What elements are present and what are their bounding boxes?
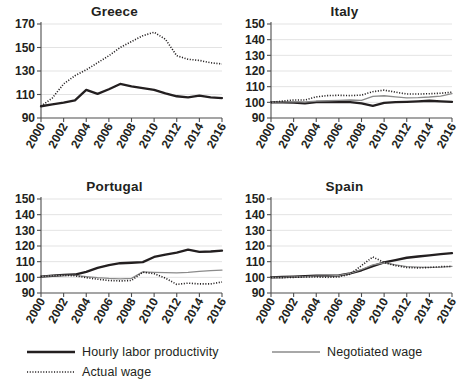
svg-text:90: 90 <box>22 286 36 300</box>
legend-label-negotiated-wage: Negotiated wage <box>327 345 422 359</box>
plot-area-portugal: 9010011012013014015020002002200420062008… <box>0 175 229 350</box>
svg-text:2008: 2008 <box>113 295 139 325</box>
legend-swatch-dotted <box>27 366 75 378</box>
svg-text:140: 140 <box>245 208 265 222</box>
chart-legend: Hourly labor productivity Actual wage Ne… <box>0 345 459 389</box>
svg-text:170: 170 <box>15 17 35 31</box>
svg-text:90: 90 <box>22 111 36 125</box>
multi-panel-line-chart: Greece 901101301501702000200220042006200… <box>0 0 459 389</box>
svg-text:90: 90 <box>252 286 266 300</box>
svg-text:150: 150 <box>15 192 35 206</box>
svg-text:2008: 2008 <box>113 120 139 150</box>
svg-text:2008: 2008 <box>343 295 369 325</box>
svg-text:2010: 2010 <box>366 120 392 150</box>
svg-text:140: 140 <box>15 208 35 222</box>
svg-text:2006: 2006 <box>90 120 116 150</box>
svg-text:2016: 2016 <box>434 295 459 325</box>
svg-text:100: 100 <box>245 96 265 110</box>
legend-swatch-solid-thick <box>27 346 75 358</box>
svg-text:120: 120 <box>15 239 35 253</box>
svg-text:110: 110 <box>16 255 36 269</box>
svg-text:2002: 2002 <box>275 295 301 325</box>
svg-text:2010: 2010 <box>136 120 162 150</box>
svg-text:150: 150 <box>245 17 265 31</box>
svg-text:110: 110 <box>246 255 266 269</box>
svg-text:2004: 2004 <box>298 295 324 325</box>
svg-text:120: 120 <box>245 239 265 253</box>
svg-text:120: 120 <box>245 64 265 78</box>
svg-text:140: 140 <box>245 33 265 47</box>
svg-text:110: 110 <box>246 80 266 94</box>
legend-item-actual-wage: Actual wage <box>27 365 151 379</box>
svg-text:2012: 2012 <box>158 120 184 150</box>
legend-label-hourly-labor-productivity: Hourly labor productivity <box>82 345 219 359</box>
svg-text:2006: 2006 <box>320 120 346 150</box>
svg-text:2016: 2016 <box>434 120 459 150</box>
svg-text:130: 130 <box>245 49 265 63</box>
legend-item-hourly-labor-productivity: Hourly labor productivity <box>27 345 219 359</box>
svg-text:90: 90 <box>252 111 266 125</box>
legend-swatch-solid-thin-gray <box>272 346 320 358</box>
plot-area-spain: 9010011012013014015020002002200420062008… <box>230 175 459 350</box>
panel-portugal: Portugal 9010011012013014015020002002200… <box>0 175 229 350</box>
svg-text:2006: 2006 <box>320 295 346 325</box>
svg-text:2006: 2006 <box>90 295 116 325</box>
svg-text:2004: 2004 <box>68 120 94 150</box>
svg-text:2016: 2016 <box>204 295 229 325</box>
svg-text:2012: 2012 <box>388 295 414 325</box>
panel-italy: Italy 9010011012013014015020002002200420… <box>230 0 459 175</box>
svg-text:100: 100 <box>15 271 35 285</box>
svg-text:2008: 2008 <box>343 120 369 150</box>
svg-text:100: 100 <box>245 271 265 285</box>
svg-text:2002: 2002 <box>45 295 71 325</box>
svg-text:2014: 2014 <box>181 295 207 325</box>
panel-spain: Spain 9010011012013014015020002002200420… <box>230 175 459 350</box>
svg-text:150: 150 <box>245 192 265 206</box>
svg-text:2014: 2014 <box>181 120 207 150</box>
svg-text:2010: 2010 <box>136 295 162 325</box>
svg-text:2012: 2012 <box>158 295 184 325</box>
svg-text:110: 110 <box>16 88 36 102</box>
svg-text:130: 130 <box>15 224 35 238</box>
svg-text:130: 130 <box>245 224 265 238</box>
svg-text:2002: 2002 <box>275 120 301 150</box>
svg-text:2012: 2012 <box>388 120 414 150</box>
svg-text:2004: 2004 <box>298 120 324 150</box>
svg-text:2004: 2004 <box>68 295 94 325</box>
svg-text:150: 150 <box>15 41 35 55</box>
svg-text:2016: 2016 <box>204 120 229 150</box>
legend-label-actual-wage: Actual wage <box>82 365 151 379</box>
svg-text:130: 130 <box>15 64 35 78</box>
panel-greece: Greece 901101301501702000200220042006200… <box>0 0 229 175</box>
svg-text:2010: 2010 <box>366 295 392 325</box>
legend-item-negotiated-wage: Negotiated wage <box>272 345 422 359</box>
svg-text:2014: 2014 <box>411 120 437 150</box>
svg-text:2014: 2014 <box>411 295 437 325</box>
plot-area-italy: 9010011012013014015020002002200420062008… <box>230 0 459 175</box>
plot-area-greece: 9011013015017020002002200420062008201020… <box>0 0 229 175</box>
svg-text:2002: 2002 <box>45 120 71 150</box>
